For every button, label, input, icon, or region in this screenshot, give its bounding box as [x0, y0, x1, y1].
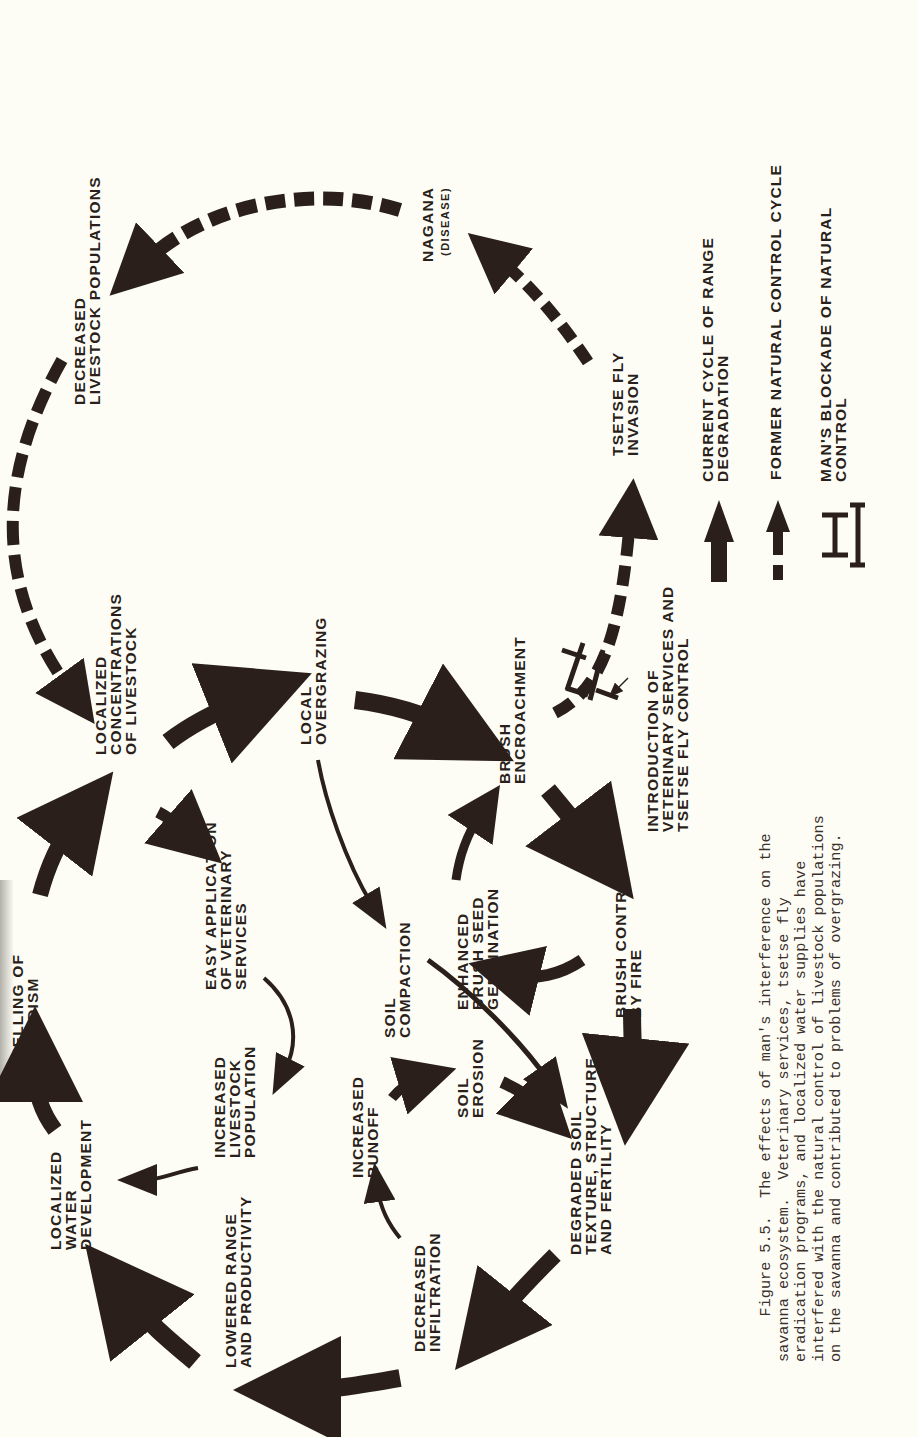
- blockade-symbol-diagram: [562, 643, 618, 700]
- edge-infiltration-to-runoff: [378, 1190, 400, 1238]
- figure-caption: Figure 5.5. The effects of man's interfe…: [758, 815, 846, 1362]
- node-tsetse-fly-invasion: TSETSE FLY INVASION: [610, 352, 640, 456]
- node-decreased-livestock-populations: DECREASED LIVESTOCK POPULATIONS: [72, 176, 102, 405]
- edge-degraded-to-infiltration: [495, 1255, 555, 1320]
- edge-nagana-to-decreased-livestock: [145, 198, 400, 262]
- node-localized-water: LOCALIZED WATER DEVELOPMENT: [48, 1119, 93, 1250]
- node-brush-encroachment: BRUSH ENCROACHMENT: [497, 636, 527, 784]
- edge-decreased-livestock-to-concentrations: [13, 360, 70, 690]
- legend-former-label: FORMER NATURAL CONTROL CYCLE: [768, 164, 783, 480]
- edge-enhanced-to-brush: [456, 815, 480, 880]
- node-introduction-vet-services: INTRODUCTION OF VETERINARY SERVICES AND …: [645, 586, 690, 832]
- legend-blockade-symbol: [822, 505, 865, 565]
- node-increased-runoff: INCREASED RUNOFF: [350, 1076, 380, 1178]
- node-brush-control-fire: BRUSH CONTROL BY FIRE: [613, 866, 643, 1018]
- edge-concentrations-to-easyapp: [158, 812, 186, 832]
- node-soil-compaction: SOIL COMPACTION: [382, 921, 412, 1038]
- node-soil-erosion: SOIL EROSION: [455, 1038, 485, 1118]
- legend-current-label: CURRENT CYCLE OF RANGE DEGRADATION: [700, 237, 730, 482]
- node-easy-application: EASY APPLICATION OF VETERINARY SERVICES: [203, 821, 248, 990]
- edge-lowered-to-water: [130, 1300, 195, 1362]
- legend-current-symbol: [704, 500, 734, 582]
- edge-overgrazing-to-compaction: [318, 760, 372, 905]
- edge-infiltration-to-lowered: [305, 1378, 400, 1390]
- node-local-overgrazing: LOCAL OVERGRAZING: [298, 616, 328, 745]
- node-enhanced-brush-seed: ENHANCED BRUSH SEED GERMINATION: [455, 888, 500, 1010]
- edge-concentrations-to-overgrazing: [168, 700, 245, 742]
- edge-easyapp-to-increased: [264, 978, 293, 1070]
- legend-blockade-label: MAN'S BLOCKADE OF NATURAL CONTROL: [818, 207, 848, 482]
- node-decreased-infiltration: DECREASED INFILTRATION: [412, 1232, 442, 1352]
- node-degraded-soil: DEGRADED SOIL TEXTURE, STRUCTURE AND FER…: [568, 1057, 613, 1255]
- legend-former-symbol: [766, 500, 790, 580]
- node-nagana: NAGANA: [420, 187, 435, 262]
- edge-increased-to-water: [145, 1168, 198, 1180]
- edge-brush-to-firecontrol: [548, 790, 590, 842]
- node-increased-livestock-population: INCREASED LIVESTOCK POPULATION: [212, 1046, 257, 1158]
- edge-erosion-to-degraded: [502, 1082, 538, 1105]
- edge-runoff-to-erosion: [392, 1080, 418, 1098]
- node-lowered-range: LOWERED RANGE AND PRODUCTIVITY: [223, 1196, 253, 1368]
- edge-overgrazing-to-brush: [355, 700, 450, 728]
- pointer-arrow-small: [616, 678, 628, 690]
- node-nagana-subtitle: (DISEASE): [439, 187, 451, 256]
- edge-tsetse-to-nagana: [500, 260, 588, 362]
- edge-fire-to-enhanced: [515, 960, 582, 977]
- node-quelling-nomadism: QUELLING OF NOMADISM: [10, 954, 40, 1073]
- node-localized-concentrations: LOCALIZED CONCENTRATIONS OF LIVESTOCK: [93, 593, 138, 755]
- edge-quelling-to-concentrations: [40, 822, 74, 895]
- edge-firecontrol-to-degraded: [632, 1009, 633, 1074]
